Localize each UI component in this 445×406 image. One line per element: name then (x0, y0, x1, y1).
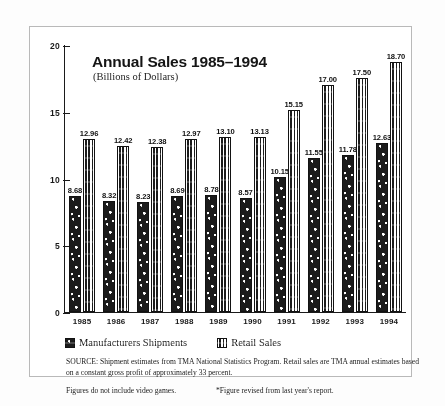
bar-value-label: 8.32 (102, 191, 116, 200)
bar-value-label: 12.42 (114, 136, 133, 145)
bar-retail: 12.38 (151, 147, 163, 312)
bar-shipments: 11.55 (308, 158, 320, 312)
bar-value-label: 11.78 (339, 145, 357, 154)
bar-group: 8.7813.10 (201, 45, 235, 312)
bar-retail: 12.96 (83, 139, 95, 312)
legend-item-retail-sales: Retail Sales (217, 337, 281, 348)
bar-group: 10.1515.15 (270, 45, 304, 312)
bar-value-label: 12.38 (148, 137, 167, 146)
y-axis-label: 5 (34, 241, 60, 251)
bar-value-label: 10.15 (270, 167, 289, 176)
bar-value-label: 15.15 (284, 100, 303, 109)
y-axis-label: 0 (34, 308, 60, 318)
y-tick (63, 313, 70, 314)
footnote-revised: *Figure revised from last year's report. (216, 386, 334, 397)
source-note: SOURCE: Shipment estimates from TMA Nati… (66, 357, 426, 379)
bar-retail: 18.70 (390, 62, 402, 312)
x-axis-label: 1986 (99, 317, 133, 326)
bar-retail: 15.15 (288, 110, 300, 312)
bar-group: 11.5517.00 (304, 45, 338, 312)
footnote-video-games: Figures do not include video games. (66, 386, 216, 397)
bar-value-label: 8.69 (170, 186, 184, 195)
bar-value-label: 8.68 (68, 186, 82, 195)
bar-shipments: 12.63 (376, 143, 388, 312)
bar-group: 12.6318.70 (372, 45, 406, 312)
x-axis-label: 1989 (201, 317, 235, 326)
bar-retail: 17.50 (356, 78, 368, 312)
y-axis-label: 10 (34, 175, 60, 185)
bar-retail: 17.00 (322, 85, 334, 312)
bar-value-label: 8.78 (204, 185, 218, 194)
plot-area: 05101520 8.6812.968.3212.428.2312.388.69… (64, 45, 406, 313)
footnote-row: Figures do not include video games. *Fig… (66, 386, 426, 397)
bar-group: 8.2312.38 (133, 45, 167, 312)
bar-value-label: 8.57 (238, 188, 252, 197)
chart-legend: Manufacturers Shipments Retail Sales (65, 337, 281, 348)
chart-frame: Annual Sales 1985–1994 (Billions of Doll… (29, 26, 412, 377)
chart-page: Annual Sales 1985–1994 (Billions of Doll… (0, 0, 445, 406)
bar-value-label: 12.63 (373, 133, 392, 142)
bar-retail: 12.97 (185, 139, 197, 312)
bar-shipments: 11.78 (342, 155, 354, 312)
x-axis-label: 1991 (270, 317, 304, 326)
chart-notes: SOURCE: Shipment estimates from TMA Nati… (66, 357, 426, 396)
x-axis-label: 1985 (65, 317, 99, 326)
legend-swatch-icon-retail (217, 338, 227, 348)
bar-retail: 13.10 (219, 137, 231, 312)
bar-value-label: 12.97 (182, 129, 201, 138)
bar-group: 8.5713.13 (236, 45, 270, 312)
bar-shipments: 8.23 (137, 202, 149, 312)
bar-value-label: 13.10 (216, 127, 235, 136)
bar-group: 8.6812.96 (65, 45, 99, 312)
x-axis-label: 1993 (338, 317, 372, 326)
bar-value-label: 11.55 (305, 148, 323, 157)
bar-group: 8.3212.42 (99, 45, 133, 312)
bar-value-label: 8.23 (136, 192, 150, 201)
bar-value-label: 18.70 (387, 52, 406, 61)
bar-shipments: 8.32 (103, 201, 115, 312)
x-axis-label: 1988 (167, 317, 201, 326)
bar-value-label: 12.96 (80, 129, 99, 138)
bar-value-label: 17.50 (353, 68, 372, 77)
x-axis-label: 1994 (372, 317, 406, 326)
bar-shipments: 10.15 (274, 177, 286, 313)
bar-shipments: 8.78 (205, 195, 217, 312)
bar-value-label: 13.13 (250, 127, 269, 136)
bar-shipments: 8.69 (171, 196, 183, 312)
y-axis-label: 20 (34, 41, 60, 51)
y-axis-label: 15 (34, 108, 60, 118)
x-axis-label: 1992 (304, 317, 338, 326)
x-axis-line (64, 312, 406, 313)
bar-retail: 12.42 (117, 146, 129, 312)
bar-group: 11.7817.50 (338, 45, 372, 312)
x-axis-label: 1990 (236, 317, 270, 326)
bar-retail: 13.13 (254, 137, 266, 312)
bar-series-container: 8.6812.968.3212.428.2312.388.6912.978.78… (65, 45, 406, 312)
bar-shipments: 8.57 (240, 198, 252, 312)
bar-group: 8.6912.97 (167, 45, 201, 312)
x-axis-label: 1987 (133, 317, 167, 326)
bar-value-label: 17.00 (318, 75, 337, 84)
bar-shipments: 8.68 (69, 196, 81, 312)
